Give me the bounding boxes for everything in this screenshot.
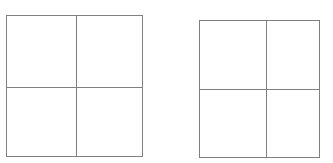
right-quartered-square bbox=[199, 20, 320, 158]
left-square-horizontal-divider bbox=[7, 87, 142, 88]
drawing-canvas bbox=[0, 0, 333, 163]
left-square-vertical-divider bbox=[76, 16, 77, 156]
right-square-horizontal-divider bbox=[200, 89, 319, 90]
left-quartered-square bbox=[6, 15, 143, 157]
